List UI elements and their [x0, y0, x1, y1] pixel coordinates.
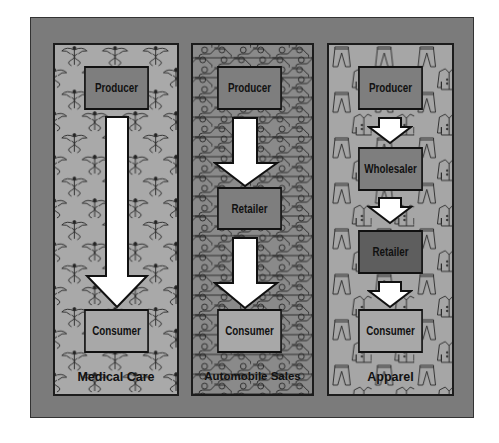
node-consumer: Consumer [217, 309, 282, 353]
arrow-down-icon [213, 237, 281, 310]
arrow-down-icon [213, 117, 281, 188]
node-label: Retailer [231, 202, 267, 216]
column-apparel: Producer Wholesaler Retailer Consumer Ap… [327, 43, 454, 396]
column-label: Medical Care [55, 370, 177, 384]
node-producer: Producer [84, 66, 149, 110]
node-label: Consumer [366, 324, 415, 338]
node-label: Producer [95, 81, 138, 95]
node-label: Wholesaler [364, 162, 417, 176]
column-medical-care: Producer Consumer Medical Care [53, 43, 179, 396]
node-retailer: Retailer [358, 230, 423, 274]
node-wholesaler: Wholesaler [358, 147, 423, 191]
node-producer: Producer [358, 66, 423, 110]
node-consumer: Consumer [358, 309, 423, 353]
node-label: Producer [228, 81, 271, 95]
node-consumer: Consumer [84, 309, 149, 353]
column-automobile-sales: Producer Retailer Consumer Automobile Sa… [191, 43, 314, 396]
arrow-down-icon [84, 116, 150, 310]
node-label: Consumer [225, 324, 274, 338]
column-label: Automobile Sales [193, 370, 312, 382]
node-label: Producer [369, 81, 412, 95]
node-label: Retailer [372, 245, 408, 259]
node-label: Consumer [92, 324, 141, 338]
arrow-down-icon [367, 281, 413, 309]
node-producer: Producer [217, 66, 282, 110]
node-retailer: Retailer [217, 187, 282, 230]
arrow-down-icon [367, 117, 413, 145]
arrow-down-icon [367, 197, 413, 225]
column-label: Apparel [329, 370, 452, 384]
